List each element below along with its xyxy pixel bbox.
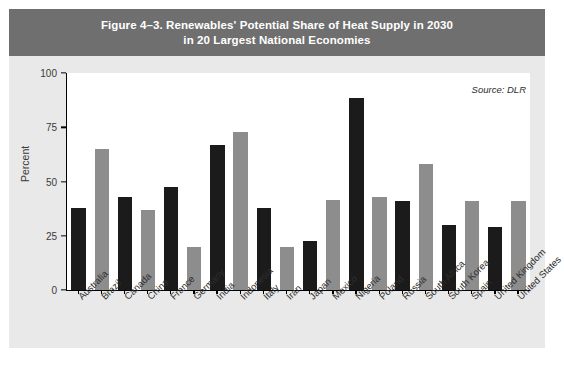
bar [233,132,247,290]
source-note: Source: DLR [472,84,526,95]
x-axis-labels: AustraliaBrazilCanadaChinaFranceGermanyI… [66,294,536,354]
bar [71,208,85,290]
y-tick-label: 100 [40,68,57,79]
bar [303,241,317,290]
bar [164,187,178,290]
bar [280,247,294,290]
bar [349,98,363,290]
y-axis: 0255075100 [0,73,66,290]
figure-title: Figure 4–3. Renewables' Potential Share … [81,18,473,48]
bar [419,164,433,290]
y-axis-title: Percent [19,146,31,182]
y-tick-label: 50 [46,176,57,187]
bar [118,197,132,290]
y-tick-label: 25 [46,230,57,241]
bar [326,200,340,290]
figure-title-banner: Figure 4–3. Renewables' Potential Share … [9,9,545,56]
bars-container [67,73,530,290]
y-tick-label: 75 [46,122,57,133]
y-tick-label: 0 [51,285,57,296]
